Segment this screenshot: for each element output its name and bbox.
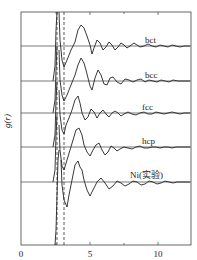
x-tick-0: 0 [19,250,24,259]
curve-label-bct: bct [145,36,156,45]
x-tick-5: 5 [88,250,93,259]
x-tick-10: 10 [154,250,163,259]
curve-bcc [53,46,190,113]
curve-label-ni-experiment: Ni(实验) [130,171,163,180]
curve-label-fcc: fcc [142,103,153,112]
curve-label-hcp: hcp [142,137,155,146]
curve-label-bcc: bcc [145,71,158,80]
rdf-chart [0,0,197,260]
curve-ni-experiment [55,150,190,245]
curve-bct [53,12,190,81]
y-axis-label: g(r) [2,114,12,128]
bottom-ticks [56,242,158,245]
top-ticks [56,12,158,15]
